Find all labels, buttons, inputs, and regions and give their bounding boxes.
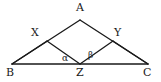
vertex-label-C: C bbox=[143, 67, 151, 78]
vertex-label-Z: Z bbox=[76, 67, 84, 78]
segment-ZY bbox=[80, 41, 113, 64]
angle-label-alpha: α bbox=[62, 54, 68, 63]
segment-XB-extension bbox=[12, 41, 47, 64]
angle-label-beta: β bbox=[88, 51, 93, 60]
vertex-label-X: X bbox=[31, 27, 39, 38]
geometry-figure: A X Y B Z C α β bbox=[0, 0, 161, 82]
vertex-label-A: A bbox=[76, 2, 84, 13]
segment-YC-extension bbox=[113, 41, 148, 64]
vertex-label-Y: Y bbox=[114, 27, 121, 38]
vertex-label-B: B bbox=[6, 67, 14, 78]
